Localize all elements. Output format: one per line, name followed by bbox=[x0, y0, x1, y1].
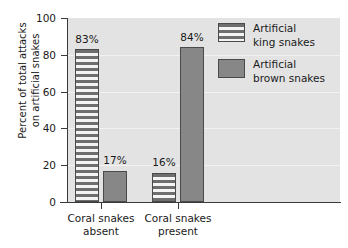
legend-label-brown-snakes-line2: brown snakes bbox=[253, 72, 325, 84]
legend-label-brown-snakes: Artificial brown snakes bbox=[253, 58, 325, 85]
bar-value-absent-king-snakes: 83% bbox=[63, 34, 111, 45]
y-tick-mark-0 bbox=[61, 202, 67, 203]
bar-absent-king-snakes bbox=[75, 49, 99, 202]
legend-label-king-snakes-line1: Artificial bbox=[253, 22, 296, 34]
bar-chart-figure: 100 80 60 40 20 0 Percent of total attac… bbox=[0, 0, 348, 248]
gridline-40 bbox=[68, 128, 340, 129]
legend-label-king-snakes: Artificial king snakes bbox=[253, 22, 315, 49]
bar-present-king-snakes bbox=[152, 173, 176, 202]
legend-label-brown-snakes-line1: Artificial bbox=[253, 58, 296, 70]
legend-swatch-king-snakes-icon bbox=[218, 23, 245, 42]
legend-label-king-snakes-line2: king snakes bbox=[253, 36, 315, 48]
x-category-label-present: Coral snakes present bbox=[123, 212, 233, 238]
legend-item-king-snakes: Artificial king snakes bbox=[218, 22, 315, 49]
y-axis-title-line1: Percent of total attacks bbox=[17, 22, 28, 138]
x-axis-line bbox=[60, 202, 341, 203]
x-category-label-present-line2: present bbox=[158, 225, 198, 237]
bar-absent-brown-snakes bbox=[103, 171, 127, 202]
x-tick-mark-absent bbox=[101, 203, 102, 209]
x-tick-mark-present bbox=[178, 203, 179, 209]
y-tick-label-80: 80 bbox=[43, 50, 56, 61]
y-tick-mark-80 bbox=[61, 55, 67, 56]
y-axis-line bbox=[67, 18, 68, 203]
legend-swatch-brown-snakes-icon bbox=[218, 59, 245, 78]
y-tick-mark-60 bbox=[61, 92, 67, 93]
bar-value-present-brown-snakes: 84% bbox=[168, 32, 216, 43]
legend-item-brown-snakes: Artificial brown snakes bbox=[218, 58, 325, 85]
y-axis-title: Percent of total attacks on artificial s… bbox=[17, 6, 42, 156]
gridline-60 bbox=[68, 92, 340, 93]
bar-value-absent-brown-snakes: 17% bbox=[91, 155, 139, 166]
y-tick-label-40: 40 bbox=[43, 123, 56, 134]
x-category-label-present-line1: Coral snakes bbox=[145, 212, 212, 224]
y-tick-label-0: 0 bbox=[49, 197, 56, 208]
x-category-label-absent-line2: absent bbox=[83, 225, 119, 237]
y-tick-label-20: 20 bbox=[43, 160, 56, 171]
gridline-80 bbox=[68, 55, 340, 56]
y-axis-title-line2: on artificial snakes bbox=[29, 34, 40, 128]
y-tick-mark-20 bbox=[61, 165, 67, 166]
y-tick-mark-100 bbox=[61, 18, 67, 19]
bar-present-brown-snakes bbox=[180, 47, 204, 202]
y-tick-label-60: 60 bbox=[43, 87, 56, 98]
y-tick-mark-40 bbox=[61, 128, 67, 129]
